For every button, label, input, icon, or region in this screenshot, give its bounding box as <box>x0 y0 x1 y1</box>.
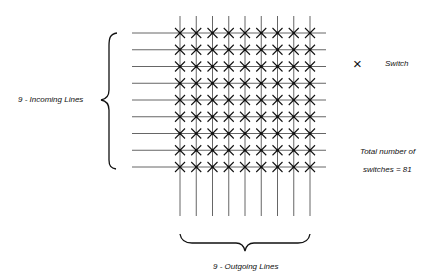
legend-symbol: × <box>353 55 362 72</box>
total-switches-line2: switches = 81 <box>363 165 412 174</box>
total-switches-line1: Total number of <box>360 147 415 156</box>
outgoing-brace <box>180 234 310 251</box>
incoming-brace <box>101 33 117 169</box>
incoming-lines-label: 9 - Incoming Lines <box>18 95 83 104</box>
crossbar-grid <box>0 0 440 280</box>
legend-switch-label: Switch <box>385 59 409 68</box>
outgoing-lines-label: 9 - Outgoing Lines <box>213 262 278 271</box>
